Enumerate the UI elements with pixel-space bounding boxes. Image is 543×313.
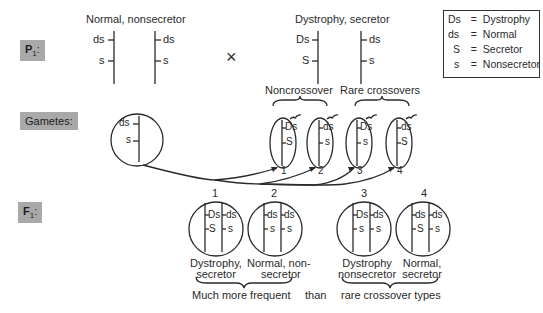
- offspring-2-a2: s: [270, 223, 275, 234]
- offspring-3-number: 3: [361, 187, 367, 199]
- gamete-4-number: 4: [397, 165, 403, 176]
- offspring-4-number: 4: [421, 187, 427, 199]
- gamete-1-number: 1: [281, 165, 287, 176]
- parent-right-allele-a2: S: [302, 54, 309, 66]
- legend-meaning: Nonsecretor: [483, 58, 540, 70]
- offspring-1-a1: Ds: [208, 209, 220, 220]
- rare-crossovers-label: Rare crossovers: [340, 84, 420, 96]
- offspring-1-a2: S: [209, 223, 216, 234]
- noncrossover-label: Noncrossover: [265, 84, 333, 96]
- offspring-3-a1: Ds: [356, 209, 368, 220]
- offspring-3-b1: ds: [373, 209, 384, 220]
- offspring-4-b1: ds: [432, 209, 443, 220]
- parent-left-allele-b2: s: [163, 54, 169, 66]
- offspring-2-phenotype: Normal, non- secretor: [247, 257, 317, 280]
- parent-left-allele-a1: ds: [93, 33, 105, 45]
- offspring-4-a1: ds: [415, 209, 426, 220]
- offspring-1-phenotype: Dystrophy, secretor: [184, 257, 248, 280]
- cross-symbol: ×: [226, 47, 237, 68]
- offspring-2-b2: s: [287, 223, 292, 234]
- gamete-2-allele-2: s: [325, 136, 330, 147]
- legend-row-dystrophy: Ds = Dystrophy: [448, 13, 530, 25]
- parent-right-allele-a1: Ds: [296, 33, 309, 45]
- legend-eq: =: [468, 13, 480, 25]
- arrow-to-gamete-2: [215, 168, 315, 184]
- offspring-3-a2: s: [359, 223, 364, 234]
- legend-row-secretor: S = Secretor: [448, 43, 523, 55]
- parent-right-title: Dystrophy, secretor: [295, 13, 390, 25]
- legend-symbol: ds: [448, 28, 465, 40]
- offspring-4-a2: S: [417, 223, 424, 234]
- offspring-4-phenotype: Normal, secretor: [396, 257, 448, 280]
- offspring-2-number: 2: [271, 187, 277, 199]
- offspring-3-phenotype: Dystrophy nonsecretor: [335, 257, 399, 280]
- parent-right-allele-b2: s: [369, 54, 375, 66]
- offspring-2-b1: ds: [284, 209, 295, 220]
- legend-eq: =: [468, 43, 480, 55]
- gamete-4-allele-1: ds: [401, 121, 412, 132]
- gamete-3-allele-1: Ds: [360, 121, 372, 132]
- offspring-2-a1: ds: [267, 209, 278, 220]
- legend-symbol: S: [448, 43, 465, 55]
- legend-eq: =: [468, 28, 480, 40]
- legend-symbol: s: [448, 58, 465, 70]
- legend-box: Ds = Dystrophy ds = Normal S = Secretor …: [443, 10, 540, 78]
- legend-meaning: Secretor: [483, 43, 523, 55]
- frequent-caption: Much more frequent: [192, 289, 290, 301]
- legend-eq: =: [468, 58, 480, 70]
- offspring-1-b2: s: [228, 223, 233, 234]
- noncrossover-bracket: [273, 96, 327, 106]
- parent-right-allele-b1: ds: [369, 33, 381, 45]
- legend-symbol: Ds: [448, 13, 465, 25]
- legend-meaning: Dystrophy: [483, 13, 530, 25]
- offspring-1-b1: ds: [226, 209, 237, 220]
- gamete-left-allele-1: ds: [119, 117, 130, 128]
- legend-row-nonsecretor: s = Nonsecretor: [448, 58, 540, 70]
- gamete-left-allele-2: s: [126, 134, 131, 145]
- arrow-to-gamete-1: [143, 165, 277, 180]
- offspring-1-number: 1: [212, 187, 218, 199]
- legend-row-normal: ds = Normal: [448, 28, 517, 40]
- parent-left-allele-b1: ds: [163, 33, 175, 45]
- phenotype-line-2: secretor: [396, 268, 448, 280]
- rare-caption: rare crossover types: [341, 289, 441, 301]
- phenotype-line-2: secretor: [184, 268, 248, 280]
- offspring-3-b2: s: [376, 223, 381, 234]
- gamete-1-allele-1: Ds: [285, 121, 297, 132]
- phenotype-line-2: secretor: [247, 268, 317, 280]
- parent-left-allele-a2: s: [99, 54, 105, 66]
- than-caption: than: [305, 289, 326, 301]
- legend-meaning: Normal: [483, 28, 517, 40]
- gamete-1-allele-2: S: [286, 136, 293, 147]
- gamete-2-allele-1: ds: [323, 121, 334, 132]
- gamete-3-number: 3: [357, 165, 363, 176]
- crossover-bracket: [355, 96, 409, 106]
- gamete-3-allele-2: s: [363, 136, 368, 147]
- phenotype-line-2: nonsecretor: [335, 268, 399, 280]
- offspring-4-b2: s: [435, 223, 440, 234]
- gamete-4-allele-2: S: [401, 136, 408, 147]
- gamete-2-number: 2: [318, 165, 324, 176]
- parent-left-title: Normal, nonsecretor: [86, 13, 186, 25]
